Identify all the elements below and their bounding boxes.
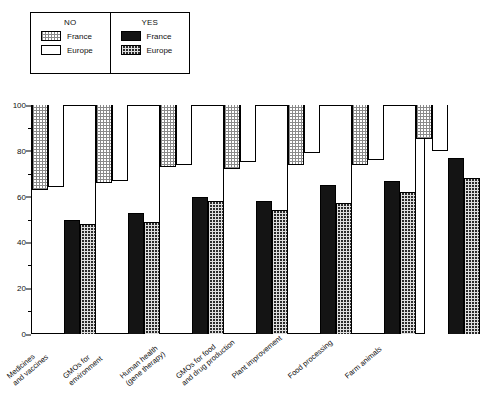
bar-yes-europe [80,224,96,334]
bar-group-2 [160,105,224,334]
bar-yes-europe [336,203,352,334]
bar-groups [31,105,425,334]
legend-swatch-no-france-icon [41,31,61,41]
bar-slot [192,105,208,334]
bar-slot [432,105,448,334]
bar-no-europe [304,105,320,153]
bar-slot [320,105,336,334]
bar-no-france [32,105,48,190]
y-tick-label-40: 40 [17,238,31,247]
bar-slot [448,105,464,334]
bar-no-france [160,105,176,167]
legend-column-no: NO France Europe [31,13,110,73]
bar-slot [384,105,400,334]
legend-item-yes-france: France [111,31,190,41]
bar-slot [464,105,480,334]
bar-no-france [224,105,240,169]
bar-yes-france [256,201,272,334]
bar-no-europe [48,105,64,187]
bar-slot [128,105,144,334]
legend-column-yes: YES France Europe [110,13,190,73]
bar-slot [80,105,96,334]
bar-slot [400,105,416,334]
chart-legend: NO France Europe YES France Europe [30,12,190,74]
x-label-cell-5: Food processing [312,334,368,414]
plot-area [31,105,425,334]
y-tick-label-80: 80 [17,146,31,155]
bar-slot [224,105,240,334]
bar-slot [96,105,112,334]
legend-title-no: NO [64,18,76,27]
y-tick-label-20: 20 [17,284,31,293]
bar-no-europe [432,105,448,151]
bar-yes-france [448,158,464,334]
bar-yes-europe [208,201,224,334]
legend-title-yes: YES [141,18,158,27]
legend-swatch-no-europe-icon [41,45,61,55]
bar-group-1 [96,105,160,334]
bar-no-france [288,105,304,165]
bar-slot [272,105,288,334]
bar-slot [288,105,304,334]
y-tick-label-100: 100 [13,101,31,110]
bar-slot [304,105,320,334]
y-axis: 020406080100 [0,105,31,334]
bar-group-5 [352,105,416,334]
bar-yes-france [384,181,400,334]
bar-group-3 [224,105,288,334]
legend-item-no-france: France [31,31,110,41]
bar-yes-europe [464,178,480,334]
bar-no-europe [368,105,384,160]
x-label-cell-4: Plant improvement [256,334,312,414]
bar-yes-europe [272,210,288,334]
bar-slot [48,105,64,334]
y-tick-label-0: 0 [22,330,31,339]
legend-swatch-yes-france-icon [121,31,141,41]
bar-group-0 [32,105,96,334]
y-tick-label-60: 60 [17,192,31,201]
bar-no-france [352,105,368,165]
bar-no-europe [112,105,128,181]
bar-yes-france [128,213,144,334]
x-axis-label: Medicinesand vaccines [5,346,50,388]
bar-no-france [416,105,432,139]
bar-slot [32,105,48,334]
legend-item-no-europe: Europe [31,45,110,55]
bar-slot [336,105,352,334]
bar-yes-europe [144,222,160,334]
bar-yes-europe [400,192,416,334]
legend-swatch-yes-europe-icon [121,45,141,55]
bar-slot [416,105,432,334]
bar-slot [176,105,192,334]
legend-label-yes-france: France [147,32,172,41]
x-axis-labels: Medicinesand vaccinesGMOs forenvironment… [31,334,425,414]
bar-slot [240,105,256,334]
x-label-cell-3: GMOs for foodand drug production [200,334,256,414]
bar-group-6 [416,105,480,334]
legend-label-yes-europe: Europe [147,46,173,55]
bar-slot [64,105,80,334]
bar-no-europe [176,105,192,165]
x-label-cell-6: Farm animals [369,334,425,414]
bar-no-europe [240,105,256,162]
bar-yes-france [320,185,336,334]
legend-item-yes-europe: Europe [111,45,190,55]
bar-yes-france [64,220,80,335]
bar-slot [256,105,272,334]
bar-yes-france [192,197,208,334]
bar-slot [160,105,176,334]
legend-label-no-europe: Europe [67,46,93,55]
bar-group-4 [288,105,352,334]
bar-slot [352,105,368,334]
bar-slot [144,105,160,334]
legend-label-no-france: France [67,32,92,41]
bar-no-france [96,105,112,183]
bar-slot [368,105,384,334]
bar-slot [208,105,224,334]
bar-slot [112,105,128,334]
